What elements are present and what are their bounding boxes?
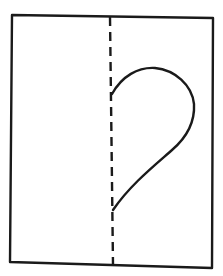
diagram-canvas: Folded paper with half-heart outline dra…: [0, 0, 223, 276]
diagram-svg: [0, 0, 223, 276]
fold-line: [110, 17, 113, 265]
half-heart-outline: [112, 68, 194, 210]
